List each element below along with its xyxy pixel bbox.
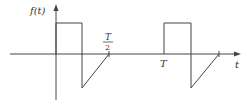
y-axis-arrow-icon xyxy=(54,4,59,11)
waveform-period-2 xyxy=(164,23,219,88)
x-axis-arrow-icon xyxy=(234,52,241,57)
half-period-numerator: T xyxy=(105,32,112,42)
period-label: T xyxy=(160,58,168,69)
y-axis-label: f(t) xyxy=(29,5,46,16)
waveform-diagram: f(t) T 2 T t xyxy=(0,0,247,104)
waveform-period-1 xyxy=(56,23,109,88)
half-period-denominator: 2 xyxy=(105,43,110,52)
x-axis-label: t xyxy=(235,59,240,70)
